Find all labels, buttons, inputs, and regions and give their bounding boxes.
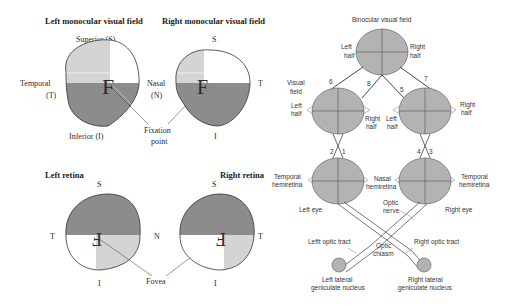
letter-f: F bbox=[197, 76, 208, 98]
nasal-hemiretina-1: Nasal bbox=[374, 175, 391, 182]
left-optic-tract-label: Leftt optic tract bbox=[308, 238, 351, 246]
line-8 bbox=[362, 75, 382, 98]
temporal-hemiretina-right-2: hemiretina bbox=[459, 181, 490, 188]
nasal-label-2: (N) bbox=[151, 91, 162, 100]
optic-nerve-1: Optic bbox=[383, 199, 399, 207]
bin-right-half-2: half bbox=[410, 52, 421, 59]
left-retina: Left retina S T I F bbox=[45, 170, 150, 288]
temporal-hemiretina-left-2: hemiretina bbox=[272, 181, 303, 188]
right-optic-tract-label: Right optic tract bbox=[414, 238, 459, 246]
right-retina: Right retina S T I F bbox=[174, 170, 265, 288]
left-retina-title: Left retina bbox=[45, 170, 85, 180]
inverted-f-left: F bbox=[92, 229, 102, 249]
bin-left-half-1: Left bbox=[341, 43, 352, 50]
quadrant-superior-nasal bbox=[110, 35, 150, 83]
right-eye-label: Right eye bbox=[445, 206, 473, 214]
inferior-label: Inferior (I) bbox=[69, 132, 104, 141]
left-eye-label: Left eye bbox=[299, 206, 323, 214]
rf-right-half-1: Right bbox=[460, 101, 475, 109]
num-6: 6 bbox=[329, 78, 333, 85]
right-lgn-circle bbox=[417, 258, 431, 272]
left-retina-t: T bbox=[50, 232, 55, 241]
temporal-label-2: (T) bbox=[46, 91, 57, 100]
right-retina-t: T bbox=[258, 232, 263, 241]
optic-chiasm-2: chiasm bbox=[373, 250, 394, 257]
binocular-title: Binocular visual field bbox=[352, 16, 412, 23]
rf-left-half-2: half bbox=[387, 123, 398, 130]
temporal-hemiretina-left-1: Temporal bbox=[274, 173, 301, 181]
line-6 bbox=[330, 67, 363, 90]
right-lgn-label-1: Right lateral bbox=[408, 276, 443, 284]
right-monocular-title: Right monocular visual field bbox=[162, 16, 265, 26]
left-lgn-circle bbox=[332, 258, 346, 272]
inverted-f-right: F bbox=[216, 229, 226, 249]
right-retina-i: I bbox=[214, 279, 217, 288]
nasal-label-1: Nasal bbox=[147, 79, 166, 88]
quadrant-superior-temporal bbox=[204, 45, 254, 83]
visual-pathway: Binocular visual field Left half Right h… bbox=[272, 16, 490, 292]
letter-f: F bbox=[102, 74, 114, 99]
bin-right-half-1: Right bbox=[410, 43, 425, 51]
lf-left-half-2: half bbox=[291, 110, 302, 117]
quadrant-inferior-temporal bbox=[224, 235, 260, 275]
quadrant-superior bbox=[174, 190, 260, 235]
retina-n-label: N bbox=[154, 232, 160, 241]
right-field-i: I bbox=[214, 132, 217, 141]
visual-field-label-1: Visual bbox=[287, 79, 305, 86]
right-retina-title: Right retina bbox=[220, 170, 265, 180]
left-lgn-label-2: geniculate nucleus bbox=[311, 284, 366, 292]
nasal-hemiretina-2: hemiretina bbox=[366, 183, 397, 190]
visual-field-label-2: field bbox=[290, 88, 302, 95]
num-2: 2 bbox=[330, 148, 334, 155]
left-monocular-visual-field: Left monocular visual field Superior (S)… bbox=[20, 16, 150, 141]
right-monocular-visual-field: Right monocular visual field S T I F bbox=[162, 16, 265, 141]
left-retina-i: I bbox=[98, 279, 101, 288]
left-monocular-title: Left monocular visual field bbox=[45, 16, 143, 26]
lf-right-half-2: half bbox=[366, 123, 377, 130]
fovea-label: Fovea bbox=[146, 277, 166, 286]
optic-nerve-2: nerve bbox=[383, 207, 400, 214]
quadrant-superior bbox=[60, 190, 150, 235]
fixation-label-2: point bbox=[151, 137, 168, 146]
left-retina-s: S bbox=[97, 180, 101, 189]
temporal-hemiretina-right-1: Temporal bbox=[461, 173, 488, 181]
left-lgn-label-1: Left lateral bbox=[322, 276, 353, 283]
bin-left-half-2: half bbox=[344, 52, 355, 59]
right-field-t: T bbox=[258, 79, 263, 88]
num-1: 1 bbox=[342, 148, 346, 155]
lf-left-half-1: Left bbox=[291, 102, 302, 109]
num-4: 4 bbox=[417, 148, 421, 155]
svg-text:F: F bbox=[216, 229, 226, 249]
visual-pathway-diagram: Left monocular visual field Superior (S)… bbox=[0, 0, 505, 307]
lf-right-half-1: Right bbox=[365, 115, 380, 123]
right-field-s: S bbox=[212, 35, 216, 44]
num-3: 3 bbox=[429, 148, 433, 155]
right-retina-s: S bbox=[212, 180, 216, 189]
svg-text:F: F bbox=[92, 229, 102, 249]
fixation-label-1: Fixation bbox=[144, 126, 171, 135]
left-nerve-to-right-lgn bbox=[338, 204, 420, 270]
temporal-label-1: Temporal bbox=[20, 79, 51, 88]
num-8: 8 bbox=[367, 80, 371, 87]
rf-right-half-2: half bbox=[461, 109, 472, 116]
rf-left-half-1: Left bbox=[386, 115, 397, 122]
num-5: 5 bbox=[400, 86, 404, 93]
right-lgn-label-2: geniculate nucleus bbox=[398, 284, 453, 292]
optic-chiasm-1: Optic bbox=[376, 242, 392, 250]
num-7: 7 bbox=[424, 75, 428, 82]
